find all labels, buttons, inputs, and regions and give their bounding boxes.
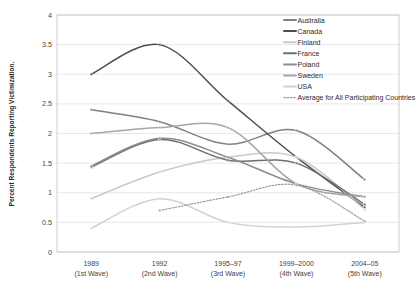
legend-label-australia[interactable]: Australia — [298, 17, 325, 24]
data-point-marker — [90, 227, 92, 229]
data-point-marker — [295, 162, 297, 164]
legend-label-poland[interactable]: Poland — [298, 61, 320, 68]
y-tick-label: 1.5 — [42, 159, 52, 168]
data-point-marker — [90, 109, 92, 111]
x-tick-label-wave: (5th Wave) — [348, 270, 382, 278]
data-point-marker — [227, 221, 229, 223]
x-tick-label-year: 1999–2000 — [279, 260, 314, 267]
data-point-marker — [227, 126, 229, 128]
data-point-marker — [364, 204, 366, 206]
data-point-marker — [364, 196, 366, 198]
y-tick-label: 3.5 — [42, 40, 52, 49]
data-point-marker — [227, 196, 229, 198]
data-point-marker — [364, 220, 366, 222]
y-axis-title: Percent Respondents Reporting Victimizat… — [8, 61, 16, 206]
y-tick-label: 3 — [48, 70, 52, 79]
data-point-marker — [159, 126, 161, 128]
data-point-marker — [227, 143, 229, 145]
y-tick-label: 2.5 — [42, 99, 52, 108]
x-tick-label-year: 1989 — [83, 260, 99, 267]
data-point-marker — [364, 208, 366, 210]
data-point-marker — [90, 73, 92, 75]
data-point-marker — [159, 137, 161, 139]
data-point-marker — [295, 156, 297, 158]
x-tick-label-wave: (4th Wave) — [279, 270, 313, 278]
data-point-marker — [159, 171, 161, 173]
data-point-marker — [295, 129, 297, 131]
data-point-marker — [159, 121, 161, 123]
x-tick-label-year: 1995–97 — [214, 260, 241, 267]
x-tick-label-year: 2004–05 — [351, 260, 378, 267]
data-point-marker — [159, 209, 161, 211]
data-point-marker — [159, 198, 161, 200]
x-tick-label-wave: (2nd Wave) — [142, 270, 178, 278]
y-tick-label: 2 — [48, 129, 52, 138]
y-tick-label: 0.5 — [42, 218, 52, 227]
x-tick-label-year: 1992 — [152, 260, 168, 267]
legend-label-canada[interactable]: Canada — [298, 28, 323, 35]
data-point-marker — [227, 159, 229, 161]
data-point-marker — [295, 226, 297, 228]
data-point-marker — [295, 184, 297, 186]
data-point-marker — [227, 156, 229, 158]
data-point-marker — [90, 198, 92, 200]
legend-label-finland[interactable]: Finland — [298, 39, 321, 46]
data-point-marker — [227, 100, 229, 102]
legend-label-usa[interactable]: USA — [298, 83, 313, 90]
legend-label-sweden[interactable]: Sweden — [298, 72, 323, 79]
legend-label-france[interactable]: France — [298, 50, 320, 57]
y-tick-label: 4 — [48, 11, 52, 20]
chart-background — [0, 0, 416, 287]
data-point-marker — [159, 44, 161, 46]
y-tick-label: 0 — [48, 248, 52, 257]
x-tick-label-wave: (3rd Wave) — [211, 270, 245, 278]
victimization-line-chart: 00.511.522.533.54 1989(1st Wave)1992(2nd… — [0, 0, 416, 287]
legend-label-average-for-all-participating-countries[interactable]: Average for All Participating Countries — [298, 94, 416, 102]
data-point-marker — [364, 179, 366, 181]
x-tick-label-wave: (1st Wave) — [74, 270, 108, 278]
data-point-marker — [90, 165, 92, 167]
data-point-marker — [90, 132, 92, 134]
y-tick-label: 1 — [48, 188, 52, 197]
chart-canvas: 00.511.522.533.54 1989(1st Wave)1992(2nd… — [0, 0, 416, 287]
